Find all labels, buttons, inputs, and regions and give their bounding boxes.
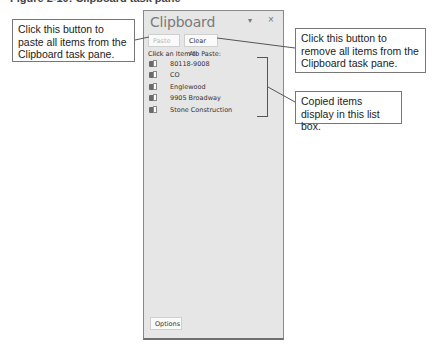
clipboard-text-icon xyxy=(148,94,160,102)
list-item[interactable]: Englewood xyxy=(148,81,258,93)
callout-clear-all: Click this button to remove all items fr… xyxy=(295,28,426,73)
list-item-label: 80118-9008 xyxy=(170,60,210,68)
paste-all-button[interactable]: Paste All xyxy=(148,34,180,47)
list-item[interactable]: 9905 Broadway xyxy=(148,93,258,105)
callout-paste-all: Click this button to paste all items fro… xyxy=(12,19,135,62)
list-item-label: Stone Construction xyxy=(170,106,232,114)
figure-caption: Figure 2-10: Clipboard task pane xyxy=(10,0,181,4)
list-item-label: CO xyxy=(170,71,180,79)
options-button[interactable]: Options xyxy=(150,317,182,330)
list-item-label: 9905 Broadway xyxy=(170,94,221,102)
clipboard-text-icon xyxy=(148,83,160,91)
list-item-label: Englewood xyxy=(170,83,206,91)
list-item[interactable]: 80118-9008 xyxy=(148,58,258,70)
list-bracket xyxy=(257,57,268,117)
pane-title: Clipboard xyxy=(150,14,215,30)
dropdown-arrow-icon[interactable]: ▾ xyxy=(248,16,252,25)
close-icon[interactable]: × xyxy=(268,14,274,25)
clipboard-text-icon xyxy=(148,106,160,114)
clipboard-text-icon xyxy=(148,71,160,79)
clipboard-items-list: 80118-9008 CO Englewood 9905 Broadway St… xyxy=(148,58,258,116)
callout-list-box: Copied items display in this list box. xyxy=(295,91,402,124)
list-label: Click an Item to Paste: xyxy=(148,50,221,58)
list-item[interactable]: CO xyxy=(148,70,258,82)
clear-all-button[interactable]: Clear All xyxy=(184,34,218,47)
clipboard-text-icon xyxy=(148,60,160,68)
list-item[interactable]: Stone Construction xyxy=(148,104,258,116)
